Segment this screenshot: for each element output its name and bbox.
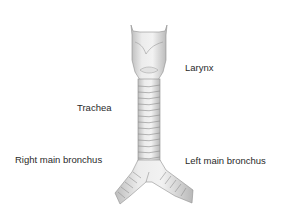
label-trachea: Trachea xyxy=(77,103,112,113)
label-left-main-bronchus: Left main bronchus xyxy=(185,156,266,166)
larynx-shape xyxy=(131,25,167,80)
bronchi-shape xyxy=(115,160,193,204)
airway-illustration xyxy=(0,0,293,216)
trachea-shape xyxy=(138,79,160,163)
label-right-main-bronchus: Right main bronchus xyxy=(15,155,102,165)
label-larynx: Larynx xyxy=(185,63,214,73)
